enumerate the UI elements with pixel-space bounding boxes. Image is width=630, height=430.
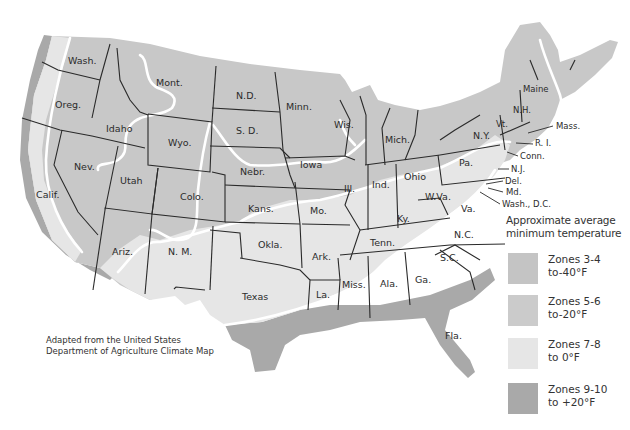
state-label-ri: R. I. [535, 138, 551, 148]
state-label-ne: Nebr. [240, 166, 265, 177]
state-label-wy: Wyo. [168, 137, 192, 148]
state-label-va: Va. [461, 203, 476, 214]
legend-title-line2: minimum temperature [506, 227, 630, 240]
state-label-id: Idaho [106, 123, 133, 134]
legend-item-zones-7-8: Zones 7-8 to 0°F [506, 338, 630, 370]
legend-item-zones-9-10: Zones 9-10 to +20°F [506, 383, 630, 415]
state-label-dc: Wash., D.C. [502, 199, 551, 209]
state-label-ar: Ark. [312, 251, 331, 262]
state-label-ms: Miss. [342, 279, 366, 290]
state-label-sd: S. D. [236, 125, 258, 136]
state-label-mo: Mo. [310, 205, 327, 216]
legend-zone-label: Zones 9-10 [548, 383, 607, 396]
state-label-fl: Fla. [445, 330, 462, 341]
state-label-pa: Pa. [459, 157, 473, 168]
state-label-co: Colo. [180, 191, 204, 202]
state-label-ct: Conn. [520, 151, 545, 161]
state-label-mt: Mont. [156, 77, 183, 88]
state-label-ga: Ga. [415, 274, 431, 285]
legend-temp-label: to 0°F [548, 351, 601, 364]
legend-swatch-zones-3-4 [508, 253, 538, 284]
state-label-sc: S.C. [440, 252, 459, 263]
state-label-ny: N.Y. [473, 130, 490, 141]
legend-zone-label: Zones 7-8 [548, 338, 601, 351]
state-label-mn: Minn. [286, 101, 312, 112]
state-label-mi: Mich. [385, 134, 410, 145]
legend-swatch-zones-7-8 [508, 338, 538, 369]
legend-temp-label: to +20°F [548, 396, 607, 409]
legend-item-zones-3-4: Zones 3-4 to-40°F [506, 253, 630, 285]
legend-title-line1: Approximate average [506, 214, 630, 227]
credit-line-1: Adapted from the United States [46, 335, 214, 346]
state-label-il: Ill. [344, 183, 355, 194]
state-label-tx: Texas [241, 291, 268, 302]
source-credit: Adapted from the United States Departmen… [46, 335, 214, 357]
state-label-az: Ariz. [112, 246, 133, 257]
state-label-ma: Mass. [556, 121, 580, 131]
state-label-de: Del. [505, 176, 522, 186]
legend-temp-label: to-40°F [548, 266, 601, 279]
state-label-in: Ind. [372, 179, 390, 190]
state-label-nc: N.C. [454, 229, 474, 240]
state-label-nj: N.J. [511, 164, 525, 174]
state-label-nv: Nev. [74, 161, 95, 172]
state-label-al: Ala. [380, 278, 398, 289]
state-label-nh: N.H. [513, 105, 531, 115]
legend-swatch-zones-9-10 [508, 383, 538, 414]
legend: Approximate average minimum temperature … [506, 214, 630, 240]
state-label-ia: Iowa [300, 159, 322, 170]
state-label-wv: W.Va. [425, 191, 451, 202]
state-label-ok: Okla. [258, 239, 282, 250]
state-label-la: La. [316, 289, 330, 300]
state-label-ky: Ky. [397, 213, 410, 224]
state-label-ks: Kans. [248, 203, 274, 214]
legend-temp-label: to-20°F [548, 308, 601, 321]
state-label-wi: Wis. [334, 119, 354, 130]
state-label-or: Oreg. [55, 99, 81, 110]
state-label-tn: Tenn. [369, 237, 395, 248]
legend-swatch-zones-5-6 [508, 295, 538, 326]
legend-zone-label: Zones 5-6 [548, 295, 601, 308]
state-label-wa: Wash. [68, 55, 97, 66]
state-label-vt: Vt. [496, 119, 508, 129]
state-label-ca: Calif. [36, 189, 59, 200]
state-label-oh: Ohio [404, 171, 426, 182]
legend-zone-label: Zones 3-4 [548, 253, 601, 266]
state-label-ut: Utah [120, 175, 143, 186]
credit-line-2: Department of Agriculture Climate Map [46, 346, 214, 357]
state-label-md: Md. [506, 187, 521, 197]
state-label-nd: N.D. [236, 90, 256, 101]
state-label-me: Maine [523, 84, 549, 94]
state-label-nm: N. M. [168, 246, 192, 257]
legend-item-zones-5-6: Zones 5-6 to-20°F [506, 295, 630, 327]
